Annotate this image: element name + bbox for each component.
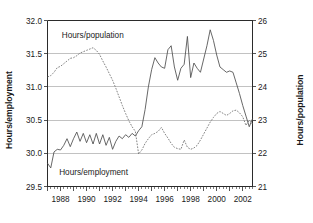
right-axis-title: Hours/population (295, 74, 305, 145)
right-tick-label: 23 (258, 116, 268, 125)
x-tick-label: 1992 (103, 195, 122, 204)
series-annotations: Hours/populationHours/employment (59, 31, 128, 177)
series-line-hours-employment (48, 30, 253, 168)
x-tick-label: 1996 (156, 195, 175, 204)
dual-axis-line-chart: 29.530.030.531.031.532.0 212223242526 19… (0, 0, 313, 223)
right-tick-label: 21 (258, 183, 268, 192)
left-tick-label: 30.5 (26, 116, 42, 125)
plot-frame (48, 21, 253, 187)
x-tick-label: 1990 (77, 195, 96, 204)
right-axis-tick-labels: 212223242526 (258, 17, 268, 192)
right-tick-label: 26 (258, 17, 268, 26)
left-tick-label: 30.0 (26, 149, 42, 158)
x-tick-label: 1994 (130, 195, 149, 204)
x-tick-label: 1988 (51, 195, 70, 204)
left-tick-label: 31.5 (26, 50, 42, 59)
right-tick-label: 22 (258, 149, 268, 158)
left-tick-label: 29.5 (26, 183, 42, 192)
chart-container: 29.530.030.531.031.532.0 212223242526 19… (0, 0, 313, 223)
data-series (48, 30, 253, 168)
x-tick-label: 2002 (234, 195, 253, 204)
x-tick-label: 2000 (208, 195, 227, 204)
left-axis-title: Hours/employment (4, 71, 14, 149)
hours-population-label: Hours/population (62, 31, 124, 40)
x-axis-tick-labels: 19881990199219941996199820002002 (51, 195, 252, 204)
left-tick-label: 31.0 (26, 83, 42, 92)
x-tick-label: 1998 (182, 195, 201, 204)
x-axis-ticks (48, 187, 253, 192)
left-axis-ticks (44, 21, 48, 187)
right-tick-label: 25 (258, 50, 268, 59)
right-tick-label: 24 (258, 83, 268, 92)
left-tick-label: 32.0 (26, 17, 42, 26)
right-axis-ticks (253, 21, 257, 187)
left-axis-tick-labels: 29.530.030.531.031.532.0 (26, 17, 42, 192)
series-line-hours-population (48, 48, 253, 154)
hours-employment-label: Hours/employment (59, 168, 128, 177)
